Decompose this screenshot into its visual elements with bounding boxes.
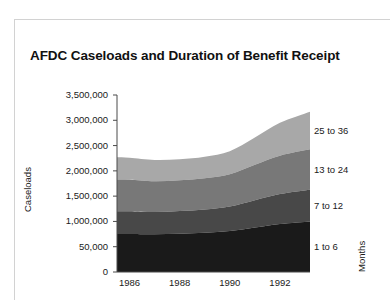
y-tick-label: 0 bbox=[42, 267, 108, 277]
series-label-25-to-36: 25 to 36 bbox=[314, 125, 348, 136]
y-tick-label: 1,000,000 bbox=[42, 216, 108, 226]
y-axis-tick-labels: 3,500,000 3,000,000 2,500,000 2,000,000 … bbox=[42, 0, 108, 300]
x-axis-tick-labels: 1986 1988 1990 1992 bbox=[0, 277, 390, 293]
y-tick-label: 3,000,000 bbox=[42, 115, 108, 125]
y-axis-title: Caseloads bbox=[22, 167, 33, 212]
plot-area: 3,500,000 3,000,000 2,500,000 2,000,000 … bbox=[0, 0, 390, 300]
x-tick-label: 1988 bbox=[160, 277, 200, 288]
y-tick-label: 2,500,000 bbox=[42, 141, 108, 151]
series-label-1-to-6: 1 to 6 bbox=[314, 241, 338, 252]
y-tick-label: 3,500,000 bbox=[42, 90, 108, 100]
series-label-13-to-24: 13 to 24 bbox=[314, 164, 348, 175]
y-tick-label: 50,000 bbox=[42, 242, 108, 252]
x-tick-label: 1986 bbox=[110, 277, 150, 288]
figure-container: AFDC Caseloads and Duration of Benefit R… bbox=[0, 0, 390, 300]
y-tick-label: 1,500,000 bbox=[42, 191, 108, 201]
x-tick-label: 1990 bbox=[210, 277, 250, 288]
y-axis bbox=[113, 95, 117, 272]
right-axis-title: Months bbox=[356, 241, 367, 272]
x-tick-label: 1992 bbox=[260, 277, 300, 288]
y-tick-label: 2,000,000 bbox=[42, 166, 108, 176]
series-label-7-to-12: 7 to 12 bbox=[314, 200, 343, 211]
